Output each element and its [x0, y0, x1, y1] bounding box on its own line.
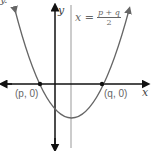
- equation-denominator: 2: [106, 18, 111, 27]
- x-axis-label: x: [142, 86, 148, 99]
- parabola-diagram: y. y x x = p + q 2 (p, 0) (q, 0): [0, 0, 156, 151]
- equation-fraction: p + q 2: [97, 8, 121, 27]
- symmetry-equation: x = p + q 2: [75, 8, 121, 27]
- root-point-p: [38, 82, 42, 86]
- equation-lhs: x =: [75, 11, 94, 24]
- equation-numerator: p + q: [97, 8, 121, 18]
- root-point-q: [100, 82, 104, 86]
- y-axis-label: y: [58, 4, 64, 17]
- point-label-p: (p, 0): [15, 88, 38, 99]
- point-label-q: (q, 0): [104, 88, 127, 99]
- corner-label: y.: [0, 0, 8, 5]
